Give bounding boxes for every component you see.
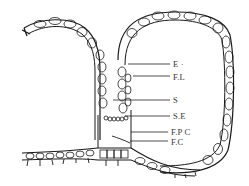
label-fc: F.C: [171, 138, 183, 147]
septum-cells: [104, 67, 131, 121]
left-tail: [22, 28, 30, 36]
label-fl: F.L: [173, 73, 185, 82]
base-cells: [26, 150, 170, 174]
label-se: S.E: [173, 112, 186, 121]
left-wall-outer: [24, 20, 100, 140]
label-e: E ·: [173, 60, 184, 69]
section-diagram: [0, 0, 249, 186]
stalk-curve: [112, 136, 130, 143]
label-s: S: [173, 96, 178, 105]
label-fpc: F.P C: [171, 128, 190, 137]
rhizoids: [27, 158, 196, 178]
left-wall-cells: [34, 18, 107, 109]
left-wall-inner: [28, 27, 95, 141]
leader-lines: [113, 64, 170, 141]
